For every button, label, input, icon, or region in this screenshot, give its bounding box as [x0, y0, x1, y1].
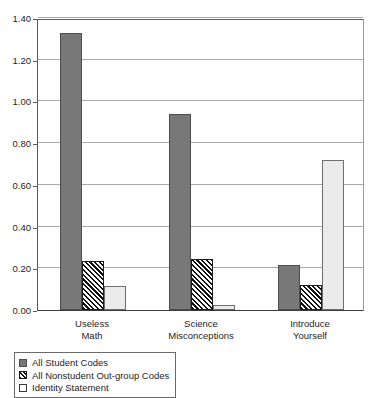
bar	[278, 265, 300, 310]
legend-item: Identity Statement	[19, 382, 169, 394]
bar-group	[169, 20, 235, 310]
gridline	[38, 17, 363, 18]
y-axis-tick-label: 0.00	[0, 305, 31, 316]
y-axis-tick-label: 0.60	[0, 180, 31, 191]
bar	[169, 114, 191, 310]
x-axis-category-label-line: Science	[146, 318, 256, 330]
legend-label: All Student Codes	[32, 357, 108, 368]
x-axis-category-label: IntroduceYourself	[255, 318, 365, 341]
y-axis-tick-label: 1.20	[0, 55, 31, 66]
bar-group	[278, 20, 344, 310]
bar	[60, 33, 82, 310]
bar-group	[60, 20, 126, 310]
bar	[322, 160, 344, 310]
bar	[104, 286, 126, 310]
x-axis-category-label-line: Yourself	[255, 330, 365, 342]
y-axis-tick-label: 1.00	[0, 96, 31, 107]
legend-label: All Nonstudent Out-group Codes	[32, 370, 169, 381]
x-axis-category-label-line: Introduce	[255, 318, 365, 330]
bar	[300, 285, 322, 310]
x-axis-category-label: ScienceMisconceptions	[146, 318, 256, 341]
y-axis-tick-mark	[33, 311, 37, 312]
chart-legend: All Student CodesAll Nonstudent Out-grou…	[14, 352, 176, 398]
legend-item: All Student Codes	[19, 357, 169, 369]
bar	[82, 261, 104, 310]
y-axis-tick-label: 0.20	[0, 263, 31, 274]
legend-swatch-icon	[19, 371, 27, 379]
x-axis-category-label: UselessMath	[37, 318, 147, 341]
y-axis-tick-label: 1.40	[0, 13, 31, 24]
y-axis-tick-label: 0.40	[0, 222, 31, 233]
legend-swatch-icon	[19, 359, 27, 367]
legend-item: All Nonstudent Out-group Codes	[19, 369, 169, 381]
x-axis-category-label-line: Math	[37, 330, 147, 342]
bar	[213, 305, 235, 310]
legend-label: Identity Statement	[32, 382, 109, 393]
y-axis-tick-label: 0.80	[0, 138, 31, 149]
bar	[191, 259, 213, 310]
plot-area	[37, 19, 364, 311]
x-axis-category-label-line: Misconceptions	[146, 330, 256, 342]
x-axis-category-label-line: Useless	[37, 318, 147, 330]
legend-swatch-icon	[19, 384, 27, 392]
